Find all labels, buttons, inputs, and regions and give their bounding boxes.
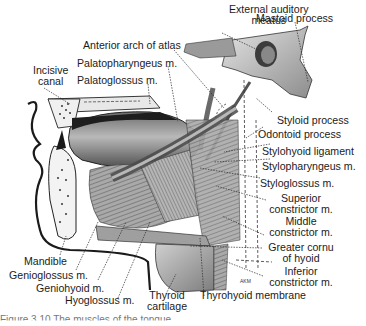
label-palatoglossus: Palatoglossus m.: [77, 75, 158, 86]
label-greater-cornu-of-hyoid: Greater cornu of hyoid: [261, 242, 341, 264]
artist-initials: AKM: [240, 278, 251, 284]
label-palatopharyngeus: Palatopharyngeus m.: [77, 58, 177, 69]
label-mastoid-process: Mastoid process: [256, 13, 333, 24]
label-hyoglossus: Hyoglossus m.: [65, 295, 134, 306]
label-geniohyoid: Geniohyoid m.: [36, 283, 104, 294]
label-superior-constrictor: Superior constrictor m.: [261, 193, 341, 215]
thyroid-cartilage: [155, 244, 214, 292]
label-inferior-constrictor: Inferior constrictor m.: [261, 266, 341, 288]
label-thyrohyoid-membrane: Thyrohyoid membrane: [200, 290, 306, 301]
label-anterior-arch-of-atlas: Anterior arch of atlas: [83, 40, 181, 51]
label-odontoid-process: Odontoid process: [258, 129, 341, 140]
label-stylohyoid-ligament: Stylohyoid ligament: [262, 146, 354, 157]
label-styloglossus: Styloglossus m.: [260, 178, 334, 189]
label-stylopharyngeus: Stylopharyngeus m.: [262, 161, 356, 172]
label-middle-constrictor: Middle constrictor m.: [261, 216, 341, 238]
anatomy-figure: AKM External auditory: [0, 0, 366, 326]
label-styloid-process: Styloid process: [277, 115, 349, 126]
label-mandible: Mandible: [24, 256, 67, 267]
label-incisive-canal: Incisive canal: [33, 65, 68, 87]
label-genioglossus: Genioglossus m.: [9, 270, 88, 281]
label-thyroid-cartilage: Thyroid cartilage: [147, 290, 187, 312]
hyoid-bone: [96, 226, 210, 246]
